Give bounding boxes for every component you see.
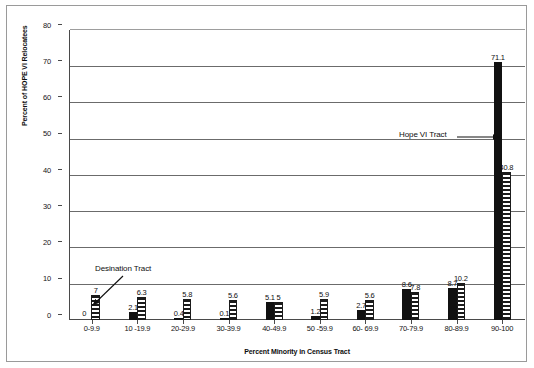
bar-destination-4[interactable]: 5 (274, 302, 283, 320)
y-tick-mark-0 (58, 314, 62, 315)
bar-destination-9[interactable]: 40.8 (502, 172, 511, 320)
bar-hopevi-5[interactable]: 1.2 (311, 316, 320, 320)
y-tick-label-60: 60 (21, 93, 51, 102)
y-tick-mark-30 (58, 205, 62, 206)
bar-value-label: 6.3 (137, 288, 147, 297)
y-tick-label-20: 20 (21, 238, 51, 247)
bar-value-label: 5.9 (319, 290, 329, 299)
bar-group-20-29.9: 0.4 5.8 (160, 30, 206, 320)
x-tick-label-5: 50 -59.9 (297, 324, 343, 333)
bar-destination-2[interactable]: 5.8 (183, 299, 192, 320)
bar-value-label: 7.8 (410, 283, 420, 292)
bar-destination-5[interactable]: 5.9 (320, 299, 329, 320)
bar-group-30-39.9: 0.1 5.6 (206, 30, 252, 320)
x-tick-label-2: 20-29.9 (160, 324, 206, 333)
bar-pair: 8.6 7.8 (402, 289, 419, 320)
y-tick-mark-80 (58, 24, 62, 25)
bar-value-label: 0 (82, 309, 86, 318)
bar-pair: 2.1 6.3 (129, 297, 146, 320)
bar-destination-6[interactable]: 5.6 (365, 300, 374, 320)
bar-group-40-49.9: 5.1 5 (251, 30, 297, 320)
x-tick-label-7: 70-79.9 (388, 324, 434, 333)
x-tick-label-6: 60- 69.9 (343, 324, 389, 333)
bar-groups: 0 7 2.1 6.3 (69, 30, 525, 320)
x-axis-title: Percent Minority in Census Tract (69, 348, 525, 355)
bar-value-label: 10.2 (454, 274, 468, 283)
bar-pair: 5.1 5 (266, 302, 283, 321)
bar-pair: 71.1 40.8 (494, 62, 511, 320)
annotation-destination-tract: Desination Tract (95, 264, 151, 273)
bar-group-90-100: 71.1 40.8 (479, 30, 525, 320)
bar-value-label: 5 (276, 293, 280, 302)
bar-pair: 0.4 5.8 (174, 299, 191, 320)
y-axis-ticks: 80 70 60 50 40 30 20 10 0 (7, 6, 69, 320)
y-tick-label-70: 70 (21, 57, 51, 66)
y-tick-label-30: 30 (21, 202, 51, 211)
bar-hopevi-6[interactable]: 2.7 (357, 310, 366, 320)
bar-group-80-89.9: 8.7 10.2 (434, 30, 480, 320)
bar-hopevi-1[interactable]: 2.1 (129, 312, 138, 320)
bar-pair: 2.7 5.6 (357, 300, 374, 320)
bar-hopevi-8[interactable]: 8.7 (448, 288, 457, 320)
bar-hopevi-3[interactable]: 0.1 (220, 318, 229, 320)
bar-group-50-59.9: 1.2 5.9 (297, 30, 343, 320)
y-tick-label-50: 50 (21, 129, 51, 138)
bar-hopevi-9[interactable]: 71.1 (494, 62, 503, 320)
annotation-arrow-hopevi-icon (455, 130, 511, 144)
x-tick-label-1: 10 -19.9 (115, 324, 161, 333)
bar-destination-8[interactable]: 10.2 (457, 283, 466, 320)
bar-group-70-79.9: 8.6 7.8 (388, 30, 434, 320)
bar-hopevi-4[interactable]: 5.1 (266, 302, 275, 321)
bar-value-label: 71.1 (491, 53, 505, 62)
bar-destination-1[interactable]: 6.3 (137, 297, 146, 320)
bar-hopevi-7[interactable]: 8.6 (402, 289, 411, 320)
annotation-hopevi-tract: Hope VI Tract (399, 130, 447, 139)
x-tick-label-0: 0-9.9 (69, 324, 115, 333)
y-tick-mark-60 (58, 96, 62, 97)
bar-value-label: 40.8 (499, 163, 513, 172)
bar-value-label: 5.6 (228, 291, 238, 300)
chart-figure: Percent of HOPE VI Relocatees 80 70 60 5… (0, 0, 534, 368)
y-tick-label-80: 80 (21, 21, 51, 30)
bar-pair: 0.1 5.6 (220, 300, 237, 320)
bar-value-label: 5.6 (365, 291, 375, 300)
y-tick-mark-50 (58, 133, 62, 134)
bar-value-label: 5.8 (182, 290, 192, 299)
x-axis-labels: 0-9.9 10 -19.9 20-29.9 30-39.9 40-49.9 5… (69, 324, 525, 333)
x-tick-label-8: 80-89.9 (434, 324, 480, 333)
x-tick-label-4: 40-49.9 (251, 324, 297, 333)
bar-destination-3[interactable]: 5.6 (229, 300, 238, 320)
annotation-arrow-destination-icon (87, 274, 127, 312)
y-tick-mark-10 (58, 278, 62, 279)
y-tick-label-40: 40 (21, 166, 51, 175)
bar-pair: 8.7 10.2 (448, 283, 465, 320)
x-tick-label-3: 30-39.9 (206, 324, 252, 333)
bar-pair: 1.2 5.9 (311, 299, 328, 320)
chart-frame: Percent of HOPE VI Relocatees 80 70 60 5… (6, 5, 527, 362)
bar-value-label: 5.1 (265, 293, 275, 302)
y-tick-mark-20 (58, 241, 62, 242)
bar-hopevi-2[interactable]: 0.4 (174, 318, 183, 320)
x-tick-label-9: 90-100 (479, 324, 525, 333)
bar-group-60-69.9: 2.7 5.6 (343, 30, 389, 320)
y-tick-mark-40 (58, 169, 62, 170)
y-tick-label-0: 0 (21, 311, 51, 320)
bar-destination-7[interactable]: 7.8 (411, 292, 420, 320)
y-tick-label-10: 10 (21, 274, 51, 283)
y-tick-mark-70 (58, 60, 62, 61)
